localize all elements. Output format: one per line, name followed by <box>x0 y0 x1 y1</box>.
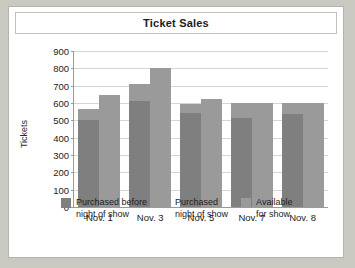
y-axis-tick-label: 500 <box>53 115 69 126</box>
legend-swatch <box>241 198 251 208</box>
bar-segment-purchased-before <box>78 120 99 207</box>
bar-available-for-show <box>99 95 120 207</box>
y-axis-tick-label: 900 <box>53 46 69 57</box>
bar-sold-stacked <box>282 103 303 207</box>
bar-available-for-show <box>201 99 222 207</box>
plot-area: 0100200300400500600700800900 Nov. 1Nov. … <box>73 51 328 208</box>
bar-segment-purchased-night <box>129 84 150 101</box>
y-axis-tick-label: 300 <box>53 150 69 161</box>
bar-group: Nov. 5 <box>176 51 227 207</box>
legend-item: Purchasednight of show <box>160 197 228 220</box>
bar-available-for-show <box>150 68 171 207</box>
bar-sold-stacked <box>129 84 150 207</box>
bar-sold-stacked <box>231 103 252 207</box>
legend-item: Availablefor show <box>241 197 292 220</box>
y-axis-tick-label: 700 <box>53 80 69 91</box>
y-axis-title: Tickets <box>17 89 31 179</box>
bar-segment-purchased-before <box>180 113 201 207</box>
bar-group: Nov. 7 <box>226 51 277 207</box>
bar-segment-purchased-before <box>129 101 150 207</box>
y-axis-title-text: Tickets <box>19 120 29 148</box>
chart-body: Tickets 0100200300400500600700800900 Nov… <box>15 37 337 253</box>
bar-sold-stacked <box>180 104 201 207</box>
legend-item: Purchased beforenight of show <box>61 197 147 220</box>
bar-segment-purchased-night <box>231 103 252 118</box>
bar-group: Nov. 8 <box>277 51 328 207</box>
y-axis-tick-label: 400 <box>53 132 69 143</box>
legend-label: Purchased beforenight of show <box>76 197 147 220</box>
legend-swatch <box>160 198 170 208</box>
y-axis-tick-label: 100 <box>53 184 69 195</box>
bar-sold-stacked <box>78 109 99 207</box>
y-axis-tick-label: 800 <box>53 63 69 74</box>
bar-available-for-show <box>303 103 324 207</box>
legend-swatch <box>61 198 71 208</box>
bar-available-for-show <box>252 103 273 207</box>
bar-segment-purchased-night <box>78 109 99 120</box>
bar-segment-purchased-before <box>231 118 252 207</box>
bar-segment-purchased-night <box>180 104 201 113</box>
bar-segment-purchased-before <box>282 114 303 207</box>
bar-group: Nov. 3 <box>125 51 176 207</box>
bar-groups: Nov. 1Nov. 3Nov. 5Nov. 7Nov. 8 <box>74 51 328 207</box>
page-title: Ticket Sales <box>143 17 209 29</box>
chart-title-band: Ticket Sales <box>15 12 337 34</box>
y-axis-tick-label: 200 <box>53 167 69 178</box>
y-axis-tick-label: 600 <box>53 98 69 109</box>
legend-label: Purchasednight of show <box>175 197 228 220</box>
chart-figure: Ticket Sales Tickets 0100200300400500600… <box>8 6 344 258</box>
bar-segment-purchased-night <box>282 103 303 114</box>
legend-label: Availablefor show <box>256 197 292 220</box>
chart-legend: Purchased beforenight of showPurchasedni… <box>61 197 329 220</box>
bar-group: Nov. 1 <box>74 51 125 207</box>
